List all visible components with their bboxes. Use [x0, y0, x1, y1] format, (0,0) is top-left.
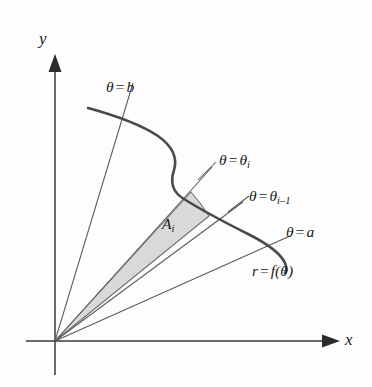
- area-subscript: i: [171, 223, 174, 234]
- equals-symbol: =: [114, 78, 127, 95]
- theta-symbol: θ: [286, 223, 294, 240]
- equals-symbol: =: [257, 187, 270, 204]
- theta-symbol: θ: [106, 78, 114, 95]
- ray-theta-equals-a: [55, 236, 290, 341]
- ray-theta-equals-theta-i-minus-1: [55, 202, 243, 341]
- label-theta-equals-b: θ=b: [106, 79, 134, 95]
- theta-symbol: θ: [249, 187, 257, 204]
- label-theta-equals-a: θ=a: [286, 224, 314, 240]
- equals-symbol: =: [227, 151, 240, 168]
- shaded-sector-area-i: [55, 192, 209, 341]
- theta-i-subscript: i: [247, 159, 250, 170]
- theta-i-value: θ: [239, 151, 247, 168]
- label-theta-equals-theta-i: θ=θi: [219, 152, 250, 171]
- y-axis-label: y: [39, 30, 47, 47]
- theta-symbol: θ: [219, 151, 227, 168]
- ray-theta-equals-theta-i: [55, 167, 212, 341]
- polar-area-figure: y x θ=b θ=θi θ=θi–1 θ=a Ai r=f(θ): [0, 0, 372, 387]
- theta-b-value: b: [126, 78, 134, 95]
- label-curve-equation: r=f(θ): [252, 263, 293, 279]
- leader-line-theta-i-minus-1: [228, 196, 249, 212]
- x-axis-arrowhead: [322, 335, 340, 348]
- equals-symbol: =: [258, 262, 271, 279]
- figure-canvas: [0, 0, 372, 387]
- equals-symbol: =: [294, 223, 307, 240]
- function-of-theta: f(θ): [271, 262, 293, 279]
- label-theta-equals-theta-i-minus-1: θ=θi–1: [249, 188, 290, 207]
- theta-i-minus-1-subscript: i–1: [277, 195, 290, 206]
- theta-i-minus-1-value: θ: [269, 187, 277, 204]
- x-axis-label: x: [345, 331, 353, 348]
- label-area-a-i: Ai: [162, 216, 174, 235]
- y-axis-arrowhead: [49, 54, 62, 72]
- theta-a-value: a: [306, 223, 314, 240]
- leader-line-theta-i: [198, 162, 216, 180]
